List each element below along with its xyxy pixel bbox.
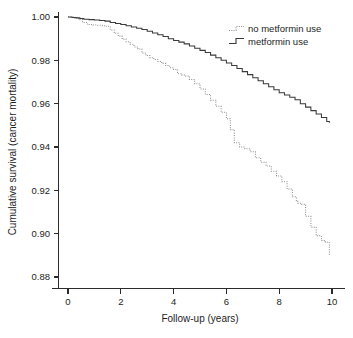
legend-swatch-no-metformin-use bbox=[229, 27, 244, 31]
x-tick-label: 8 bbox=[277, 296, 282, 307]
legend-label-no-metformin-use: no metformin use bbox=[248, 23, 321, 34]
y-tick-label: 0.94 bbox=[32, 141, 51, 152]
y-tick-label: 0.88 bbox=[32, 271, 51, 282]
legend-swatch-metformin-use bbox=[229, 39, 244, 44]
y-axis-title: Cumulative survival (cancer mortality) bbox=[7, 69, 18, 236]
x-tick-label: 4 bbox=[171, 296, 176, 307]
y-tick-label: 0.96 bbox=[32, 98, 51, 109]
legend-label-metformin-use: metformin use bbox=[248, 36, 308, 47]
x-tick-label: 10 bbox=[327, 296, 338, 307]
chart-legend: no metformin use metformin use bbox=[229, 23, 321, 47]
x-tick-label: 0 bbox=[65, 296, 70, 307]
y-tick-label: 1.00 bbox=[32, 11, 51, 22]
x-tick-label: 2 bbox=[118, 296, 123, 307]
y-axis-ticks: 0.880.900.920.940.960.981.00 bbox=[32, 11, 59, 282]
kaplan-meier-chart: 0.880.900.920.940.960.981.00 0246810 Cum… bbox=[0, 0, 353, 338]
x-axis-ticks: 0246810 bbox=[65, 289, 337, 308]
chart-canvas: 0.880.900.920.940.960.981.00 0246810 Cum… bbox=[0, 0, 353, 338]
x-axis-title: Follow-up (years) bbox=[161, 313, 238, 324]
y-tick-label: 0.92 bbox=[32, 185, 51, 196]
series-layer bbox=[68, 17, 329, 255]
series-no-metformin-use bbox=[68, 17, 329, 255]
x-tick-label: 6 bbox=[224, 296, 229, 307]
y-tick-label: 0.90 bbox=[32, 228, 51, 239]
y-tick-label: 0.98 bbox=[32, 55, 51, 66]
